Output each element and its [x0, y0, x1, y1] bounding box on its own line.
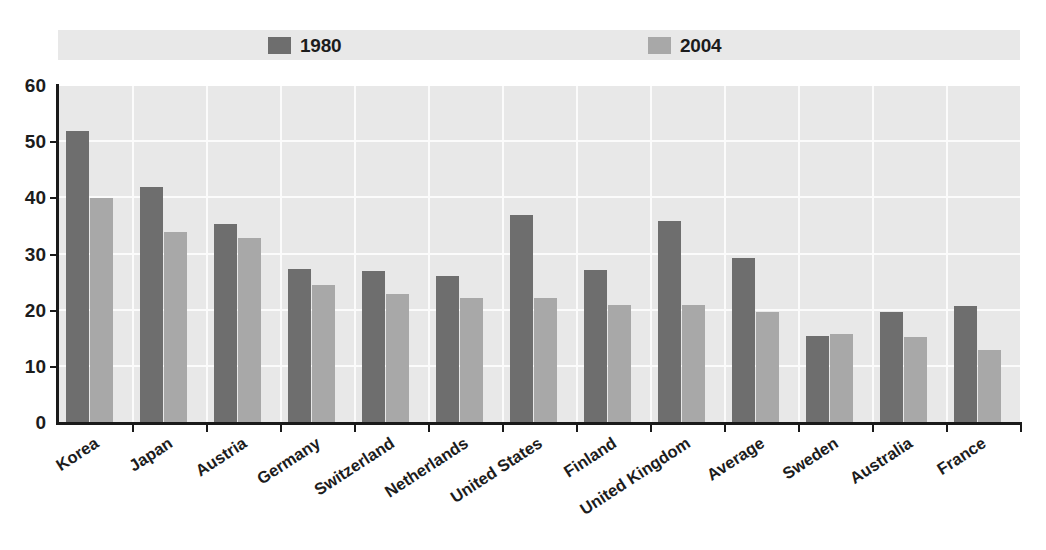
gridline-vertical	[576, 86, 578, 423]
y-axis-tick	[50, 197, 58, 199]
x-axis-tick	[280, 425, 282, 432]
bar-1980-japan	[140, 187, 163, 423]
bar-chart: 1980 2004 0102030405060 KoreaJapanAustri…	[0, 0, 1046, 550]
y-axis-tick-label: 60	[6, 76, 46, 95]
x-axis-label-finland: Finland	[561, 434, 619, 480]
bar-2004-sweden	[830, 334, 853, 423]
x-axis-tick	[206, 425, 208, 432]
x-axis-label-sweden: Sweden	[780, 434, 841, 482]
gridline-vertical	[650, 86, 652, 423]
gridline-horizontal	[58, 196, 1020, 198]
bar-2004-finland	[608, 305, 631, 423]
gridline-horizontal	[58, 253, 1020, 255]
x-axis-label-france: France	[935, 434, 989, 477]
bar-2004-united-states	[534, 298, 557, 423]
legend-label-1980: 1980	[300, 36, 341, 55]
x-axis-label-australia: Australia	[847, 434, 915, 486]
legend-swatch-2004	[648, 37, 671, 54]
bar-2004-average	[756, 312, 779, 423]
bar-2004-united-kingdom	[682, 305, 705, 423]
y-axis-tick-label: 40	[6, 188, 46, 207]
legend-swatch-1980	[268, 37, 291, 54]
bar-2004-germany	[312, 285, 335, 423]
y-axis-tick-label: 50	[6, 132, 46, 151]
x-axis-tick	[946, 425, 948, 432]
gridline-vertical	[354, 86, 356, 423]
bar-2004-austria	[238, 238, 261, 423]
bar-2004-switzerland	[386, 294, 409, 423]
x-axis-label-germany: Germany	[254, 434, 323, 487]
legend-entry-1980: 1980	[268, 30, 341, 60]
legend-entry-2004: 2004	[648, 30, 721, 60]
plot-area	[58, 86, 1020, 423]
bar-2004-france	[978, 350, 1001, 423]
legend-label-2004: 2004	[680, 36, 721, 55]
x-axis-tick	[872, 425, 874, 432]
bar-1980-sweden	[806, 336, 829, 423]
y-axis-tick-label: 10	[6, 357, 46, 376]
x-axis-tick	[132, 425, 134, 432]
x-axis-tick	[428, 425, 430, 432]
x-axis-tick	[576, 425, 578, 432]
y-axis-tick	[50, 141, 58, 143]
gridline-vertical	[280, 86, 282, 423]
bar-1980-australia	[880, 312, 903, 423]
gridline-vertical	[132, 86, 134, 423]
x-axis-label-average: Average	[704, 434, 767, 483]
bar-2004-australia	[904, 337, 927, 423]
gridline-vertical	[724, 86, 726, 423]
y-axis-tick-label: 20	[6, 301, 46, 320]
gridline-horizontal	[58, 140, 1020, 142]
bar-1980-netherlands	[436, 276, 459, 423]
x-axis-label-austria: Austria	[192, 434, 249, 479]
x-axis-tick	[798, 425, 800, 432]
bar-1980-average	[732, 258, 755, 423]
bar-1980-finland	[584, 270, 607, 423]
bar-2004-netherlands	[460, 298, 483, 423]
gridline-vertical	[206, 86, 208, 423]
gridline-vertical	[872, 86, 874, 423]
x-axis-tick	[650, 425, 652, 432]
x-axis-label-korea: Korea	[53, 434, 101, 473]
bar-1980-austria	[214, 224, 237, 423]
bar-1980-germany	[288, 269, 311, 423]
y-axis-tick	[50, 254, 58, 256]
bar-1980-france	[954, 306, 977, 423]
bar-1980-united-states	[510, 215, 533, 423]
x-axis-tick	[354, 425, 356, 432]
gridline-vertical	[798, 86, 800, 423]
y-axis-tick-label: 30	[6, 245, 46, 264]
bar-1980-switzerland	[362, 271, 385, 423]
x-axis-tick	[1020, 425, 1022, 432]
y-axis-tick	[50, 366, 58, 368]
x-axis-tick	[502, 425, 504, 432]
bar-1980-united-kingdom	[658, 221, 681, 423]
y-axis-tick	[50, 310, 58, 312]
bar-2004-japan	[164, 232, 187, 423]
gridline-vertical	[502, 86, 504, 423]
chart-legend: 1980 2004	[58, 30, 1020, 60]
x-axis-label-japan: Japan	[126, 434, 175, 474]
bar-1980-korea	[66, 131, 89, 423]
x-axis-line	[56, 422, 1022, 425]
gridline-vertical	[946, 86, 948, 423]
y-axis-tick-label: 0	[6, 413, 46, 432]
bar-2004-korea	[90, 198, 113, 423]
gridline-vertical	[428, 86, 430, 423]
x-axis-tick	[724, 425, 726, 432]
